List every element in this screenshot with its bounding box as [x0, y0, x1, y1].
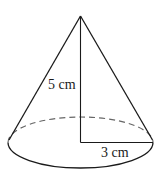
base-front-arc: [8, 143, 153, 169]
right-slant-edge: [81, 16, 153, 140]
cone-diagram: 5 cm 3 cm: [0, 0, 163, 179]
radius-label: 3 cm: [101, 145, 129, 160]
slant-height-label: 5 cm: [48, 77, 76, 92]
